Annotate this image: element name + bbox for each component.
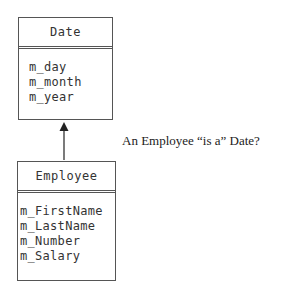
inheritance-arrow-icon: [58, 122, 70, 160]
date-class-attributes: m_day m_month m_year: [19, 49, 112, 105]
employee-class-name: Employee: [18, 162, 115, 193]
attribute-m-firstname: m_FirstName: [20, 204, 115, 219]
date-class-box: Date m_day m_month m_year: [18, 17, 113, 120]
attribute-m-year: m_year: [29, 90, 112, 105]
relationship-caption: An Employee “is a” Date?: [122, 133, 260, 149]
attribute-m-number: m_Number: [20, 234, 115, 249]
attribute-m-lastname: m_LastName: [20, 219, 115, 234]
employee-class-attributes: m_FirstName m_LastName m_Number m_Salary: [18, 193, 115, 264]
attribute-m-salary: m_Salary: [20, 249, 115, 264]
attribute-m-month: m_month: [29, 75, 112, 90]
attribute-m-day: m_day: [29, 60, 112, 75]
employee-class-box: Employee m_FirstName m_LastName m_Number…: [17, 161, 116, 281]
date-class-name: Date: [19, 18, 112, 49]
